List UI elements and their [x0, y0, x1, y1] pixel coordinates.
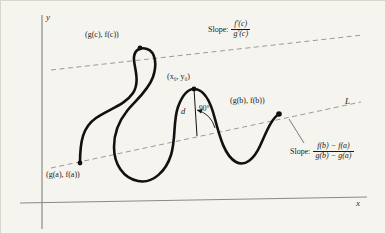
- secant-slope-leader-line: [289, 119, 304, 143]
- tangent-slope-fraction: f′(c) g′(c): [231, 20, 250, 39]
- point-c-label: (g(c), f(c)): [85, 31, 119, 39]
- tangent-slope-annotation: Slope: f′(c) g′(c): [208, 20, 250, 39]
- x-axis-label: x: [356, 199, 360, 208]
- tangent-slope-denominator: g′(c): [231, 29, 250, 39]
- tangent-slope-word: Slope:: [208, 25, 228, 34]
- point-b-dot: [276, 111, 282, 117]
- line-L-label: L: [345, 97, 350, 106]
- parametric-curve: [80, 48, 279, 181]
- diagram-canvas: [1, 1, 386, 234]
- leader-line-group: [289, 119, 304, 143]
- distance-segment-d: [194, 89, 197, 136]
- secant-slope-denominator: g(b) − g(a): [313, 151, 353, 161]
- axes-group: [20, 15, 367, 229]
- point-a-label: (g(a), f(a)): [46, 171, 80, 179]
- point-b-label: (g(b), f(b)): [230, 97, 265, 105]
- point-x0y0-label: (x₀, y₀): [167, 73, 190, 81]
- parametric-curve-group: [80, 48, 279, 181]
- point-a-dot: [78, 161, 83, 166]
- x-axis: [20, 197, 367, 203]
- secant-slope-fraction: f(b) − f(a) g(b) − g(a): [313, 142, 353, 161]
- figure-container: y x (g(c), f(c)) (g(a), f(a)) (g(b), f(b…: [0, 0, 386, 234]
- distance-label: d: [181, 107, 185, 116]
- tangent-slope-numerator: f′(c): [232, 20, 249, 29]
- tangent-line-dashed: [51, 35, 363, 70]
- point-c-dot: [138, 46, 143, 51]
- right-angle-label: 90°: [199, 105, 210, 113]
- secant-slope-word: Slope:: [290, 147, 310, 156]
- secant-slope-numerator: f(b) − f(a): [315, 142, 352, 151]
- y-axis-label: y: [46, 13, 50, 22]
- secant-slope-annotation: Slope: f(b) − f(a) g(b) − g(a): [290, 142, 354, 161]
